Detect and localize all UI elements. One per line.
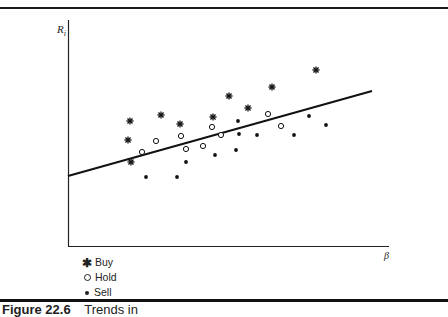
sell-point — [236, 119, 240, 123]
buy-point — [127, 158, 134, 165]
sell-point — [307, 114, 311, 118]
hold-point — [209, 124, 214, 129]
y-axis-label-subscript: i — [64, 29, 66, 38]
hold-point — [200, 143, 205, 148]
sell-point — [237, 132, 241, 136]
sell-point — [255, 133, 259, 137]
hold-point — [178, 133, 183, 138]
sell-point — [234, 148, 238, 152]
x-axis-label: β — [384, 250, 389, 261]
hold-point — [218, 132, 223, 137]
figure-label: Figure 22.6 — [2, 302, 71, 317]
y-axis-label: Ri — [57, 23, 66, 38]
hold-point — [183, 146, 188, 151]
hold-point — [153, 138, 158, 143]
figure-caption: Figure 22.6 Trends in — [2, 303, 138, 317]
buy-point — [209, 113, 216, 120]
asterisk-marker-icon: ✱ — [82, 258, 92, 268]
buy-point — [157, 111, 164, 118]
buy-point — [176, 120, 183, 127]
legend-item-hold: Hold — [82, 270, 117, 285]
sell-point — [292, 133, 296, 137]
sell-point — [324, 123, 328, 127]
buy-point — [244, 104, 251, 111]
sell-point — [175, 175, 179, 179]
legend-label-sell: Sell — [94, 285, 112, 300]
buy-point — [225, 92, 232, 99]
sell-point — [213, 153, 217, 157]
scatter-plot — [0, 0, 448, 300]
legend-label-buy: Buy — [95, 255, 113, 270]
hold-point — [278, 123, 283, 128]
open-circle-marker-icon — [84, 274, 91, 281]
sell-point — [184, 160, 188, 164]
series-buy — [124, 66, 319, 165]
legend-item-sell: Sell — [82, 285, 117, 300]
figure-title: Trends in — [84, 302, 138, 317]
sell-point — [144, 175, 148, 179]
legend-label-hold: Hold — [95, 270, 117, 285]
buy-point — [126, 117, 133, 124]
hold-point — [265, 111, 270, 116]
buy-point — [124, 136, 131, 143]
legend: ✱ Buy Hold Sell — [82, 255, 117, 300]
hold-point — [139, 149, 144, 154]
y-axis-label-main: R — [57, 23, 64, 35]
legend-item-buy: ✱ Buy — [82, 255, 117, 270]
filled-dot-marker-icon — [85, 291, 89, 295]
buy-point — [312, 66, 319, 73]
buy-point — [268, 83, 275, 90]
